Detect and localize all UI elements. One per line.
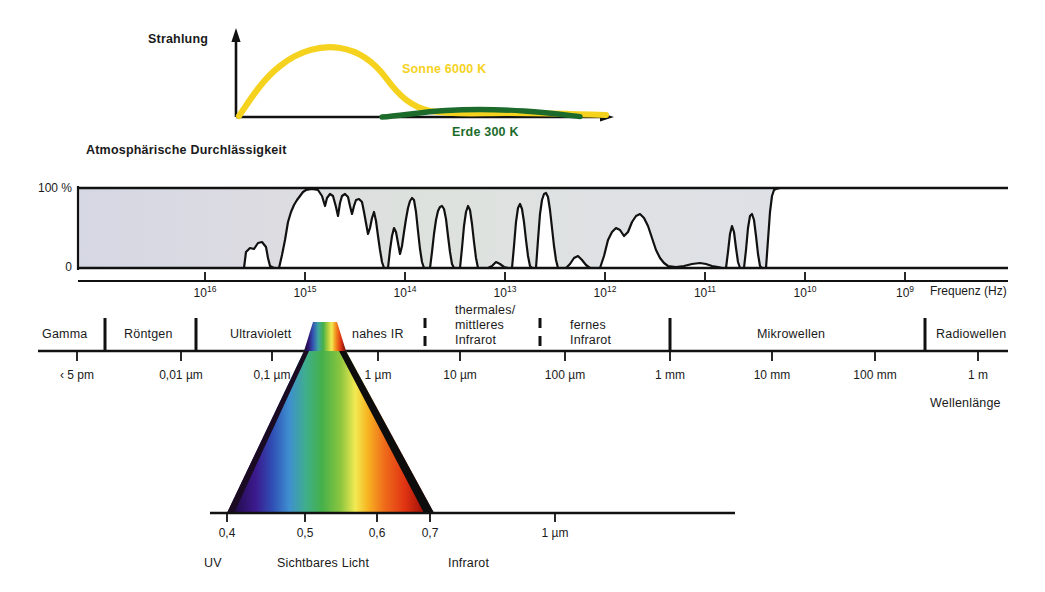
wavelength-ticks — [77, 351, 978, 361]
wavelength-axis-title: Wellenlänge — [930, 396, 1001, 410]
visible-axis — [210, 513, 735, 522]
band-label-fernes-ir-line1: fernes — [570, 318, 611, 333]
wavelength-tick-3: 1 µm — [338, 368, 418, 382]
band-label-nahes-ir: nahes IR — [352, 327, 404, 341]
band-label-mikrowellen: Mikrowellen — [757, 327, 825, 341]
wavelength-tick-6: 1 mm — [630, 368, 710, 382]
visible-tick-0: 0,4 — [197, 526, 257, 540]
band-label-ultraviolett: Ultraviolett — [230, 327, 291, 341]
band-label-roentgen: Röntgen — [124, 327, 173, 341]
spectrum-band-svg — [0, 0, 1045, 592]
band-label-thermal-ir: thermales/ mittleres Infrarot — [455, 303, 515, 348]
band-label-fernes-ir: fernes Infrarot — [570, 318, 611, 348]
wavelength-tick-8: 100 mm — [835, 368, 915, 382]
band-label-fernes-ir-line2: Infrarot — [570, 333, 611, 348]
wavelength-tick-4: 10 µm — [420, 368, 500, 382]
wavelength-tick-0: ‹ 5 pm — [37, 368, 117, 382]
visible-tick-2: 0,6 — [347, 526, 407, 540]
visible-tick-4: 1 µm — [525, 526, 585, 540]
wavelength-tick-1: 0,01 µm — [141, 368, 221, 382]
figure-root: Strahlung Sonne 6000 K Erde 300 K Atmosp… — [0, 0, 1045, 592]
wavelength-tick-5: 100 µm — [525, 368, 605, 382]
wavelength-tick-7: 10 mm — [732, 368, 812, 382]
visible-region-uv: UV — [204, 556, 222, 570]
visible-region-infrared: Infrarot — [448, 556, 489, 570]
band-label-thermal-ir-line2: mittleres — [455, 318, 515, 333]
band-label-thermal-ir-line1: thermales/ — [455, 303, 515, 318]
wavelength-tick-9: 1 m — [938, 368, 1018, 382]
band-label-radiowellen: Radiowellen — [936, 327, 1006, 341]
visible-light-neck — [304, 322, 346, 351]
visible-tick-3: 0,7 — [400, 526, 460, 540]
visible-tick-1: 0,5 — [275, 526, 335, 540]
band-label-thermal-ir-line3: Infrarot — [455, 333, 515, 348]
wavelength-tick-2: 0,1 µm — [232, 368, 312, 382]
visible-region-visible: Sichtbares Licht — [277, 556, 369, 570]
band-label-gamma: Gamma — [42, 327, 87, 341]
